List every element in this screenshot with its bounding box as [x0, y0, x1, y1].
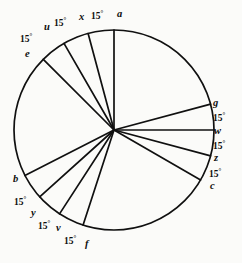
radius-x: [88, 34, 114, 130]
circle-diagram-canvas: [0, 0, 242, 263]
radius-c: [114, 130, 201, 180]
circle-diagram-figure: a 15° x 15° u 15° e g 15° w 15° z 15° c …: [0, 0, 242, 263]
radius-g: [114, 104, 211, 130]
radius-z: [114, 130, 211, 156]
